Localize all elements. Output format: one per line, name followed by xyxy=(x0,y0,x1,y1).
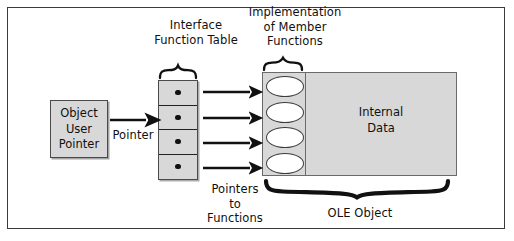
member-function-ellipse-icon xyxy=(266,153,304,174)
object-user-pointer-line-3: Pointer xyxy=(51,137,107,153)
internal-data-line-1: Internal xyxy=(306,105,456,121)
object-user-pointer-box[interactable]: Object User Pointer xyxy=(50,100,108,158)
pointer-dot-icon xyxy=(175,90,180,95)
interface-table-slot[interactable] xyxy=(159,81,197,106)
object-user-pointer-line-1: Object xyxy=(51,106,107,122)
internal-data-text: Internal Data xyxy=(306,105,456,136)
member-function-ellipse-icon xyxy=(266,102,304,123)
member-function-cell[interactable] xyxy=(263,73,305,99)
member-function-ellipse-icon xyxy=(266,127,304,148)
internal-data-line-2: Data xyxy=(306,121,456,137)
internal-data-box[interactable]: Internal Data xyxy=(305,72,457,176)
interface-table-slot[interactable] xyxy=(159,130,197,155)
pointer-dot-icon xyxy=(175,164,180,169)
member-function-cell[interactable] xyxy=(263,99,305,125)
interface-table-slot[interactable] xyxy=(159,155,197,180)
object-user-pointer-text: Object User Pointer xyxy=(51,106,107,153)
member-function-cell[interactable] xyxy=(263,150,305,176)
object-user-pointer-line-2: User xyxy=(51,122,107,138)
label-pointer: Pointer xyxy=(109,128,157,143)
label-implementation-of-member-functions: Implementationof MemberFunctions xyxy=(232,5,358,49)
pointer-dot-icon xyxy=(175,115,180,120)
member-function-ellipse-icon xyxy=(266,76,304,97)
interface-function-table[interactable] xyxy=(158,80,198,180)
pointer-dot-icon xyxy=(175,139,180,144)
diagram-figure: InterfaceFunction Table Implementationof… xyxy=(0,0,514,241)
member-function-column[interactable] xyxy=(262,72,306,176)
label-ole-object: OLE Object xyxy=(306,206,414,221)
interface-table-slot[interactable] xyxy=(159,106,197,131)
label-pointers-to-functions: PointerstoFunctions xyxy=(192,182,278,226)
member-function-cell[interactable] xyxy=(263,124,305,150)
